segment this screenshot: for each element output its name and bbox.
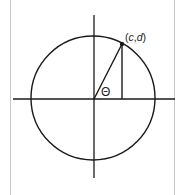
angle-label: Θ [101,85,110,99]
unit-circle [31,36,155,160]
point-cd [120,42,124,46]
unit-circle-diagram: (c,d) Θ [0,0,178,195]
point-label: (c,d) [125,31,146,43]
